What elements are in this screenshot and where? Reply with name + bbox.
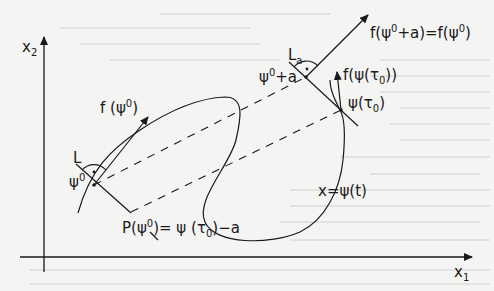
label-psi0-plus-a: ψ0+a xyxy=(259,67,297,86)
x-axis-label: x1 xyxy=(454,263,469,283)
vector-f-psi0 xyxy=(94,117,148,185)
right-angle-dot-L xyxy=(93,171,96,174)
label-psi0: ψ0 xyxy=(69,172,85,191)
axes xyxy=(20,37,472,272)
label-psi-tau0: ψ(τ0) xyxy=(348,94,385,114)
point-psi0 xyxy=(92,183,96,187)
right-angle-dot-La xyxy=(306,68,309,71)
point-psi0-plus-a xyxy=(304,75,308,79)
label-f-psi-tau0: f(ψ(τ0)) xyxy=(343,66,397,86)
label-poincare-map: P(ψ0)= ψ (τ0)−a xyxy=(122,218,240,239)
bleed-through-text xyxy=(30,14,490,284)
label-La: La xyxy=(288,46,303,66)
label-curve: x=ψ(t) xyxy=(318,182,367,200)
label-f-psi0-plus-a: f(ψ0+a)=f(ψ0) xyxy=(370,23,471,42)
label-L: L xyxy=(73,149,82,167)
y-axis-label: x2 xyxy=(22,38,37,58)
point-psi-tau0 xyxy=(339,108,343,112)
right-angle-arc-L xyxy=(82,165,106,170)
phase-plane-figure: x2 x1 f (ψ0) L ψ0 P(ψ0)= ψ (τ0)−a La ψ0+… xyxy=(0,0,494,291)
label-f-psi0: f (ψ0) xyxy=(100,98,138,117)
